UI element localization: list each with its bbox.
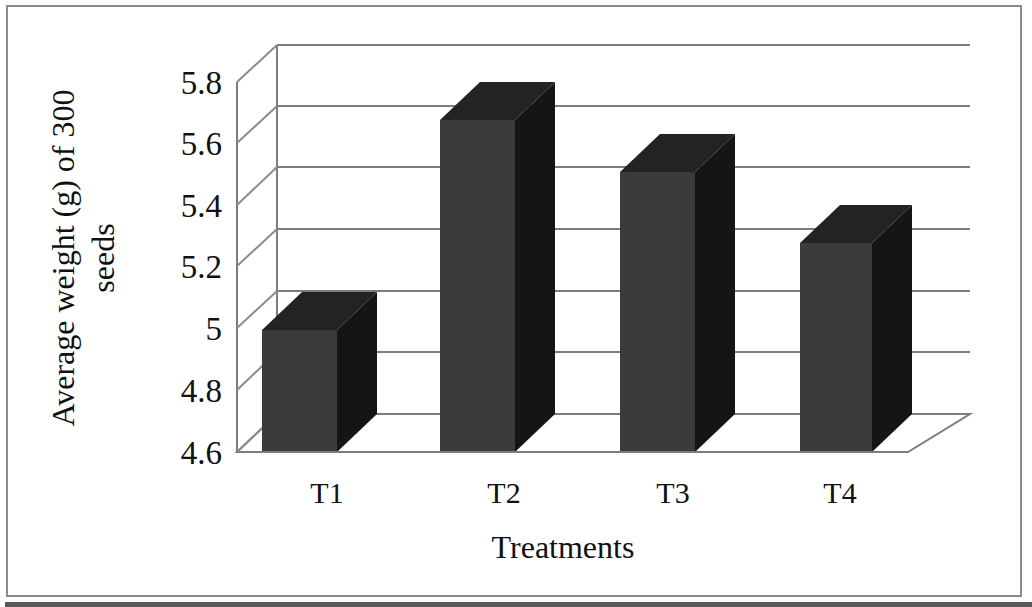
y-axis-title-line1: Average weight (g) of 300 bbox=[45, 89, 81, 426]
bar-chart: 5.8 5.6 5.4 5.2 5 4.8 4.6 T1 T2 T3 T4 Tr… bbox=[0, 0, 1032, 607]
y-axis-title-line2: seeds bbox=[85, 223, 121, 292]
x-tick-label-t2: T2 bbox=[487, 476, 520, 509]
y-tick-label-5-8: 5.8 bbox=[181, 65, 222, 101]
figure-container: 5.8 5.6 5.4 5.2 5 4.8 4.6 T1 T2 T3 T4 Tr… bbox=[0, 0, 1032, 607]
y-axis-title: Average weight (g) of 300 seeds bbox=[45, 89, 121, 426]
y-tick-label-4-6: 4.6 bbox=[181, 435, 222, 471]
x-tick-label-t4: T4 bbox=[823, 476, 856, 509]
y-tick-label-5-4: 5.4 bbox=[181, 188, 222, 224]
x-tick-label-t1: T1 bbox=[310, 476, 343, 509]
y-tick-label-5-6: 5.6 bbox=[181, 126, 222, 162]
scan-edge-left bbox=[0, 0, 5, 607]
bar-T1[interactable] bbox=[262, 292, 377, 452]
x-tick-label-t3: T3 bbox=[656, 476, 689, 509]
y-tick-label-5: 5 bbox=[206, 311, 223, 347]
bar-T3[interactable] bbox=[620, 134, 735, 452]
bar-T2[interactable] bbox=[440, 82, 555, 452]
scan-edge-bottom bbox=[0, 602, 1032, 607]
bar-T4[interactable] bbox=[800, 205, 912, 452]
x-axis-title: Treatments bbox=[492, 529, 635, 565]
y-tick-label-5-2: 5.2 bbox=[181, 249, 222, 285]
y-tick-label-4-8: 4.8 bbox=[181, 373, 222, 409]
